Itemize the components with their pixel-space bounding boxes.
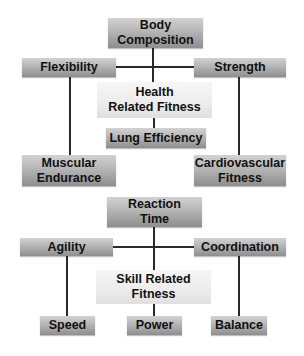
box-label: Skill Related bbox=[116, 272, 190, 287]
box-label: Lung Efficiency bbox=[109, 131, 202, 146]
box-label: Composition bbox=[117, 33, 193, 48]
connector-body-to-health bbox=[152, 48, 154, 82]
box-label: Power bbox=[136, 318, 174, 333]
fitness-components-diagram: Body Composition Flexibility Strength He… bbox=[0, 0, 304, 356]
box-label: Endurance bbox=[37, 171, 102, 186]
box-strength: Strength bbox=[194, 58, 286, 77]
box-muscular-endurance: Muscular Endurance bbox=[22, 155, 116, 186]
box-label: Strength bbox=[214, 60, 265, 75]
connector-skill-to-power bbox=[153, 304, 155, 316]
connector-health-to-lung bbox=[153, 118, 155, 128]
connector-agility-to-speed bbox=[66, 256, 68, 316]
connector-reaction-to-skill bbox=[153, 227, 155, 270]
box-label: Time bbox=[128, 212, 181, 227]
box-label: Health bbox=[108, 85, 200, 100]
connector-strength-to-cardio bbox=[238, 77, 240, 155]
box-agility: Agility bbox=[20, 238, 113, 256]
box-label: Fitness bbox=[195, 171, 285, 186]
box-body-composition: Body Composition bbox=[108, 18, 203, 48]
box-power: Power bbox=[127, 316, 182, 335]
box-label: Fitness bbox=[116, 287, 190, 302]
box-label: Cardiovascular bbox=[195, 156, 285, 171]
box-label: Agility bbox=[47, 240, 85, 255]
box-coordination: Coordination bbox=[194, 238, 286, 256]
box-skill-related-fitness: Skill Related Fitness bbox=[96, 270, 211, 304]
box-label: Speed bbox=[49, 318, 87, 333]
box-label: Flexibility bbox=[40, 60, 98, 75]
box-lung-efficiency: Lung Efficiency bbox=[106, 128, 206, 148]
box-label: Related Fitness bbox=[108, 100, 200, 115]
box-label: Balance bbox=[215, 318, 263, 333]
connector-agility-coordination bbox=[113, 246, 194, 248]
box-label: Muscular bbox=[37, 156, 102, 171]
box-health-related-fitness: Health Related Fitness bbox=[97, 82, 212, 118]
box-reaction-time: Reaction Time bbox=[107, 197, 202, 227]
box-balance: Balance bbox=[211, 316, 267, 335]
connector-coordination-to-balance bbox=[238, 256, 240, 316]
box-label: Coordination bbox=[201, 240, 279, 255]
box-label: Body bbox=[117, 18, 193, 33]
box-flexibility: Flexibility bbox=[22, 58, 116, 77]
connector-flexibility-strength bbox=[116, 66, 194, 68]
connector-flexibility-to-muscular bbox=[69, 77, 71, 155]
box-cardiovascular-fitness: Cardiovascular Fitness bbox=[194, 155, 286, 186]
box-speed: Speed bbox=[40, 316, 95, 335]
box-label: Reaction bbox=[128, 197, 181, 212]
